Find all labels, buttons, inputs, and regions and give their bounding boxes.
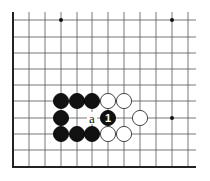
board-edges: [12, 12, 196, 168]
black-stone-icon: [84, 126, 99, 141]
black-stone-icon: [69, 126, 84, 141]
white-stone-icon: [100, 126, 115, 141]
star-point-icon: [59, 18, 63, 22]
star-point-icon: [170, 18, 174, 22]
white-stone-icon: [116, 93, 131, 108]
black-stone-icon: [53, 126, 68, 141]
black-stone-icon: [53, 93, 68, 108]
go-board-diagram: a 1: [0, 0, 210, 181]
star-point-icon: [170, 116, 174, 120]
point-label-a: a: [89, 111, 95, 126]
grid-lines: [13, 12, 196, 167]
move-number: 1: [105, 112, 111, 124]
black-stone-icon: [84, 93, 99, 108]
black-stone-icon: [69, 93, 84, 108]
white-stone-icon: [116, 126, 131, 141]
point-labels: a: [87, 111, 97, 126]
white-stone-icon: [100, 93, 115, 108]
white-stone-icon: [132, 110, 147, 125]
black-stone-icon: [53, 110, 68, 125]
